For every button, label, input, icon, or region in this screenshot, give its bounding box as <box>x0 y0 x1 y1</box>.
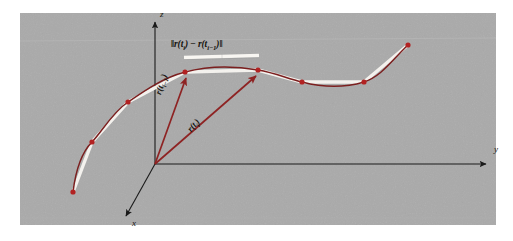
sample-point <box>182 69 187 74</box>
r-of-t-i: r(t <box>174 39 183 49</box>
sample-point <box>70 189 75 194</box>
sample-point <box>125 99 130 104</box>
space-curve-figure <box>0 0 513 241</box>
sample-point <box>89 139 94 144</box>
sample-point <box>255 67 260 72</box>
panel-background <box>20 13 496 225</box>
subscript-i-minus-1: i−1 <box>207 44 216 51</box>
x-axis-label: x <box>132 219 136 228</box>
sample-point <box>405 42 410 47</box>
sample-point <box>299 79 304 84</box>
sample-point <box>361 79 366 84</box>
minus-sign: − <box>188 39 198 49</box>
norm-close: ‖ <box>219 39 222 49</box>
y-axis-label: y <box>494 145 498 154</box>
chord-length-label: ‖r(ti) − r(ti−1)‖ <box>171 40 222 52</box>
z-axis-label: z <box>160 10 164 19</box>
r-of-t-prev: r(t <box>198 39 207 49</box>
figure-root: ‖r(ti) − r(ti−1)‖ r(ti−1) r(ti) z y x <box>0 0 513 241</box>
